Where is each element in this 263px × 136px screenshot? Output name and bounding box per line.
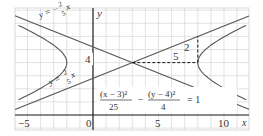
asymptote-upper-label: y = − 2 5 x <box>36 0 73 26</box>
svg-text:4: 4 <box>161 102 166 112</box>
svg-text:(x − 3)²: (x − 3)² <box>100 89 128 99</box>
tick-x-0: 0 <box>86 117 92 129</box>
x-axis-label: x <box>241 117 247 128</box>
svg-text:−: − <box>138 94 144 105</box>
svg-text:(y − 4)²: (y − 4)² <box>148 89 176 99</box>
svg-text:2: 2 <box>57 0 63 9</box>
rise-label: 2 <box>184 41 190 53</box>
svg-text:y = −: y = − <box>36 3 60 20</box>
plot: y x −5 0 5 10 4 y = − 2 5 x y = 2 5 x 5 … <box>0 0 263 136</box>
run-label: 5 <box>173 50 179 62</box>
y-axis-label: y <box>96 7 102 19</box>
tick-x-10: 10 <box>218 117 230 129</box>
tick-x-neg5: −5 <box>18 117 30 129</box>
hyperbola-diagram: y x −5 0 5 10 4 y = − 2 5 x y = 2 5 x 5 … <box>0 0 263 136</box>
svg-text:25: 25 <box>109 102 119 112</box>
svg-text:x: x <box>63 1 71 12</box>
svg-text:= 1: = 1 <box>187 94 200 105</box>
tick-y-4: 4 <box>85 53 91 65</box>
tick-x-5: 5 <box>155 117 161 129</box>
